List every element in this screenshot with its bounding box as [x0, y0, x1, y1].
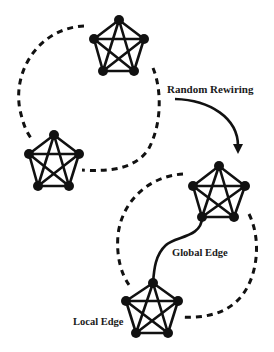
graph-node: [74, 149, 84, 159]
local-edge: [193, 186, 234, 217]
graph-node: [188, 181, 198, 191]
graph-node: [197, 212, 207, 222]
graph-node: [114, 15, 124, 25]
rewiring-arrow-curve: [175, 99, 238, 146]
local-edge: [219, 166, 234, 217]
graph-node: [131, 328, 141, 338]
graph-node: [33, 181, 43, 191]
cluster-left: [24, 130, 84, 191]
dashed-ring-lower-left: [118, 174, 183, 285]
graph-node: [129, 66, 139, 76]
rewiring-arrow-head: [233, 144, 243, 154]
graph-node: [24, 149, 34, 159]
graph-node: [214, 161, 224, 171]
graph-node: [163, 328, 173, 338]
graph-node: [121, 296, 131, 306]
graph-node: [64, 181, 74, 191]
random-rewiring-label: Random Rewiring: [167, 83, 254, 95]
graph-node: [49, 130, 59, 140]
network-diagram: Random Rewiring Global Edge Local Edge: [0, 0, 274, 352]
cluster-top: [89, 15, 149, 76]
dashed-ring-upper-right: [82, 68, 159, 170]
graph-node: [148, 278, 158, 288]
cluster-bottom: [121, 278, 183, 338]
local-edge: [153, 283, 168, 333]
graph-node: [139, 34, 149, 44]
graph-node: [98, 66, 108, 76]
local-edge-label: Local Edge: [73, 316, 124, 327]
graph-node: [89, 34, 99, 44]
dashed-ring-upper: [19, 26, 84, 138]
graph-node: [229, 212, 239, 222]
dashed-ring-lower-right: [180, 214, 257, 317]
graph-node: [173, 296, 183, 306]
global-edge-label: Global Edge: [172, 247, 228, 258]
graph-node: [240, 181, 250, 191]
cluster-right: [188, 161, 250, 222]
